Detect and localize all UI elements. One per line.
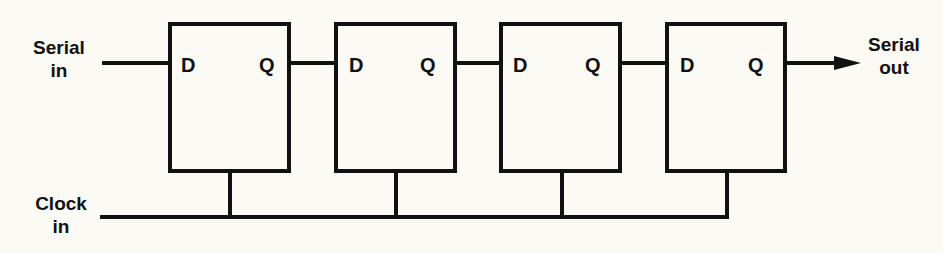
ff1-q-label: Q [259, 55, 275, 75]
ff3-q-label: Q [585, 55, 601, 75]
ff1-d-label: D [181, 55, 195, 75]
serial-in-label-line1: Serial [30, 36, 88, 59]
ff4-d-label: D [680, 55, 694, 75]
clock-in-label: Clock in [28, 192, 94, 238]
shift-register-wiring [0, 0, 943, 253]
ff4-q-label: Q [748, 55, 764, 75]
clock-in-label-line1: Clock [28, 192, 94, 215]
ff3-d-label: D [513, 55, 527, 75]
serial-in-label-line2: in [30, 59, 88, 82]
serial-in-label: Serial in [30, 36, 88, 82]
serial-out-label-line2: out [862, 56, 926, 79]
flip-flop-3-box [501, 24, 620, 171]
clock-in-label-line2: in [28, 215, 94, 238]
flip-flop-2-box [336, 24, 455, 171]
flip-flop-4-box [667, 24, 785, 171]
serial-out-label: Serial out [862, 33, 926, 79]
flip-flop-1-box [170, 24, 289, 171]
serial-out-arrow-icon [834, 56, 861, 70]
ff2-d-label: D [349, 55, 363, 75]
ff2-q-label: Q [420, 55, 436, 75]
serial-out-label-line1: Serial [862, 33, 926, 56]
